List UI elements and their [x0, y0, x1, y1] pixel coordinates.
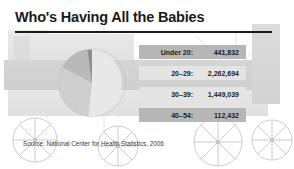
- row-label: 30–39:: [139, 91, 200, 98]
- watermark-band-left-slab: [14, 36, 30, 112]
- page-title: Who's Having All the Babies: [15, 9, 204, 25]
- row-value: 112,432: [200, 112, 246, 119]
- watermark-band-right-slab: [252, 24, 280, 104]
- table-row: 40–54: 112,432: [139, 108, 246, 122]
- row-label: 20–29:: [139, 70, 200, 77]
- infographic-panel: Who's Having All the Babies Under 20: 44…: [0, 0, 294, 169]
- row-label: Under 20:: [139, 49, 200, 56]
- source-note: Source: National Center for Health Stati…: [23, 140, 164, 147]
- row-value: 2,262,694: [200, 70, 246, 77]
- pie-slice-20-29: [88, 49, 122, 116]
- row-value: 1,449,039: [200, 91, 246, 98]
- row-label: 40–54:: [139, 112, 200, 119]
- row-value: 441,832: [200, 49, 246, 56]
- pie-chart-svg: [56, 47, 128, 119]
- pie-chart: [56, 47, 128, 119]
- table-row: 30–39: 1,449,039: [139, 87, 246, 101]
- table-row: Under 20: 441,832: [139, 45, 246, 59]
- table-row: 20–29: 2,262,694: [139, 66, 246, 80]
- title-divider: [15, 31, 272, 33]
- data-table: Under 20: 441,832 20–29: 2,262,694 30–39…: [139, 45, 246, 122]
